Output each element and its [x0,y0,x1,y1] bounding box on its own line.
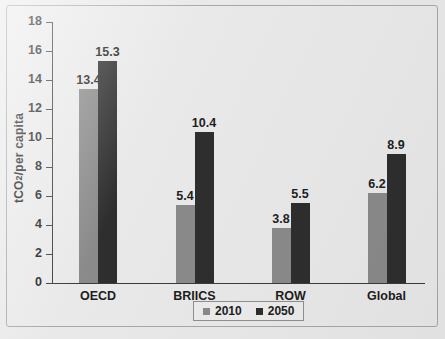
bar-value-label: 10.4 [192,116,216,130]
y-axis-tick-label: 0 [35,275,42,289]
y-axis-tick: 10 [46,138,52,139]
bar: 5.5 [291,203,310,283]
y-axis-tick-label: 2 [35,246,42,260]
legend-label: 2050 [268,304,295,318]
bar-group: 6.28.9Global [368,22,406,283]
bar-group: 3.85.5ROW [272,22,310,283]
y-axis-title-text: tCO2/per capita [12,113,26,203]
bar: 6.2 [368,193,387,283]
plot-area: 024681012141618 13.415.3OECD5.410.4BRIIC… [52,22,425,283]
y-axis-tick-label: 8 [35,159,42,173]
legend-label: 2010 [215,304,242,318]
y-axis-tick: 14 [46,80,52,81]
y-axis-tick-label: 16 [28,43,42,57]
y-axis-tick-label: 6 [35,188,42,202]
bar: 5.4 [176,205,195,283]
y-axis-line [52,22,53,283]
y-axis-tick: 4 [46,225,52,226]
x-axis-category-label: Global [367,289,406,303]
legend-item: 2050 [256,304,295,318]
chart-legend: 20102050 [193,301,304,321]
legend-swatch [256,308,263,315]
y-axis-tick: 6 [46,196,52,197]
bar: 13.4 [79,89,98,283]
bar: 15.3 [98,61,117,283]
y-axis-tick: 8 [46,167,52,168]
y-axis-tick: 12 [46,109,52,110]
y-axis-tick-label: 14 [28,72,42,86]
bar-value-label: 15.3 [95,45,119,59]
bar: 3.8 [272,228,291,283]
bar-group: 5.410.4BRIICS [176,22,214,283]
bar: 10.4 [195,132,214,283]
bar-value-label: 5.4 [176,189,193,203]
bar-value-label: 6.2 [368,177,385,191]
legend-item: 2010 [203,304,242,318]
y-axis-title-suffix: /per capita [12,113,26,175]
bar: 8.9 [387,154,406,283]
bar-value-label: 5.5 [291,187,308,201]
y-axis-tick: 0 [46,283,52,284]
y-axis-tick: 16 [46,51,52,52]
y-axis-title: tCO2/per capita [6,98,32,218]
bar-value-label: 8.9 [387,138,404,152]
chart-figure: 024681012141618 13.415.3OECD5.410.4BRIIC… [0,0,445,339]
legend-swatch [203,308,210,315]
y-axis-title-prefix: tCO [12,180,26,203]
y-axis-tick-label: 4 [35,217,42,231]
x-axis-category-label: OECD [80,289,116,303]
x-axis-line [52,283,425,284]
y-axis-tick: 18 [46,22,52,23]
bar-value-label: 3.8 [272,212,289,226]
y-axis-tick-label: 18 [28,14,42,28]
y-axis-title-subscript: 2 [14,175,24,180]
bar-group: 13.415.3OECD [79,22,117,283]
y-axis-tick: 2 [46,254,52,255]
